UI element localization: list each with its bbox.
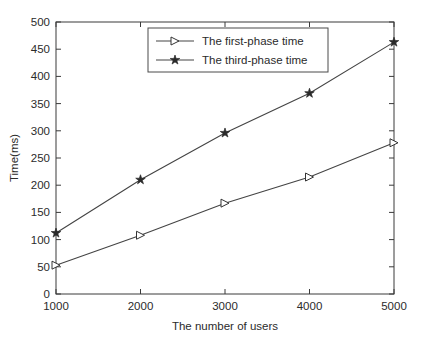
y-tick-label: 450 [31, 43, 50, 55]
line-chart: 050100150200250300350400450500 100020003… [0, 0, 428, 337]
y-tick-label: 100 [31, 234, 50, 246]
x-tick-label: 4000 [297, 300, 323, 312]
y-tick-label: 250 [31, 152, 50, 164]
x-tick-label: 5000 [381, 300, 407, 312]
data-point-marker [220, 128, 230, 137]
legend-label-1: The third-phase time [202, 54, 307, 66]
y-tick-label: 150 [31, 206, 50, 218]
legend-label-0: The first-phase time [202, 35, 304, 47]
chart-legend[interactable]: The first-phase timeThe third-phase time [148, 28, 328, 72]
y-tick-label: 300 [31, 125, 50, 137]
data-point-marker [221, 199, 229, 207]
y-tick-label: 350 [31, 98, 50, 110]
data-point-marker [306, 173, 314, 181]
y-tick-label: 50 [37, 261, 50, 273]
data-point-marker [137, 231, 145, 239]
x-tick-label: 1000 [43, 300, 69, 312]
y-tick-label: 0 [44, 288, 50, 300]
y-tick-label: 200 [31, 179, 50, 191]
data-point-marker [305, 88, 315, 97]
y-tick-label: 400 [31, 70, 50, 82]
chart-figure: 050100150200250300350400450500 100020003… [0, 0, 428, 337]
x-axis-title: The number of users [172, 320, 278, 332]
x-tick-label: 3000 [212, 300, 238, 312]
y-tick-label: 500 [31, 16, 50, 28]
x-tick-label: 2000 [128, 300, 154, 312]
y-axis-title: Time(ms) [8, 134, 20, 182]
